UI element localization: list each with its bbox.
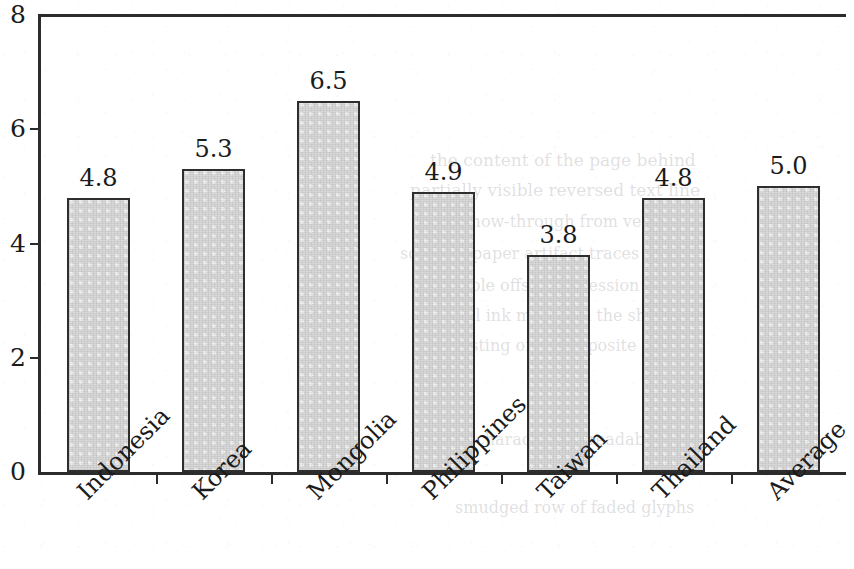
y-axis-tick-mark — [30, 357, 41, 359]
y-axis-tick-label: 0 — [0, 459, 26, 484]
bar — [757, 186, 820, 472]
y-axis-tick-label: 8 — [0, 2, 26, 27]
bar — [67, 198, 130, 472]
bar — [642, 198, 705, 472]
y-axis-tick-label: 2 — [0, 345, 26, 370]
y-axis-tick-mark — [30, 128, 41, 130]
plot-border-top — [38, 14, 846, 17]
y-axis-tick-label: 4 — [0, 231, 26, 256]
bar-value-label: 5.3 — [174, 137, 254, 161]
bar-value-label: 4.8 — [59, 166, 139, 190]
bar-value-label: 3.8 — [519, 223, 599, 247]
x-axis-tick-mark — [616, 475, 618, 484]
bar-chart: 02468 4.85.36.54.93.84.85.0 IndonesiaKor… — [0, 0, 854, 569]
bar-value-label: 6.5 — [289, 69, 369, 93]
x-axis-tick-mark — [156, 475, 158, 484]
bar — [297, 101, 360, 472]
x-axis-tick-mark — [501, 475, 503, 484]
y-axis-line — [38, 14, 41, 475]
bar — [412, 192, 475, 472]
bar-value-label: 4.9 — [404, 160, 484, 184]
bar-value-label: 5.0 — [749, 154, 829, 178]
y-axis-tick-mark — [30, 243, 41, 245]
x-axis-tick-mark — [271, 475, 273, 484]
x-axis-tick-mark — [731, 475, 733, 484]
x-axis-tick-mark — [386, 475, 388, 484]
bar — [182, 169, 245, 472]
bar-value-label: 4.8 — [634, 166, 714, 190]
y-axis-tick-label: 6 — [0, 116, 26, 141]
